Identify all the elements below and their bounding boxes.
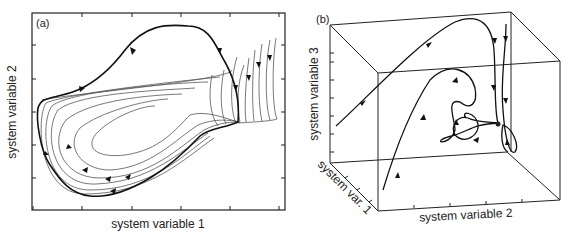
panel-a-y-axis-label: system variable 2 bbox=[5, 65, 19, 159]
panel-b-label: (b) bbox=[316, 13, 329, 25]
panel-a-x-axis-label: system variable 1 bbox=[111, 217, 205, 231]
panel-b-y-axis-label: system variable 3 bbox=[307, 47, 321, 141]
panel-b-box bbox=[330, 12, 560, 211]
arrow-icon bbox=[420, 114, 426, 120]
figure: (a) system variable 1 system variable 2 bbox=[0, 0, 572, 238]
arrow-icon bbox=[452, 77, 458, 83]
panel-a-x-ticks bbox=[33, 13, 279, 210]
panel-a-y-ticks bbox=[32, 45, 285, 178]
fixed-point-marker bbox=[496, 122, 501, 127]
arrow-icon bbox=[503, 98, 508, 104]
panel-b-z-axis-label: system var. 1 bbox=[315, 157, 375, 217]
panel-a: (a) system variable 1 system variable 2 bbox=[5, 13, 285, 231]
arrow-icon bbox=[256, 62, 261, 68]
arrow-icon bbox=[130, 47, 136, 55]
panel-b-x-axis-label: system variable 2 bbox=[419, 206, 513, 225]
arrow-icon bbox=[66, 144, 72, 149]
panel-a-limit-cycle bbox=[38, 25, 239, 196]
panel-b-ticks bbox=[330, 53, 522, 208]
panel-a-frame bbox=[32, 13, 285, 210]
panel-b: (b) system variable 2 system variable 3 … bbox=[307, 12, 560, 224]
panel-a-label: (a) bbox=[36, 17, 49, 29]
arrow-icon bbox=[105, 176, 111, 182]
panel-a-transient-trajectories bbox=[41, 38, 277, 194]
arrow-icon bbox=[395, 172, 400, 178]
arrow-icon bbox=[82, 167, 88, 173]
arrow-icon bbox=[473, 137, 479, 143]
arrow-icon bbox=[426, 42, 432, 48]
